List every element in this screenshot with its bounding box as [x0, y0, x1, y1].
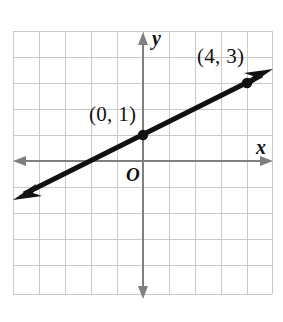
- x-axis-label: x: [256, 137, 266, 157]
- origin-label: O: [126, 165, 140, 184]
- point-label-4-3: (4, 3): [197, 46, 244, 67]
- graph-figure: (4, 3) (0, 1) O y x: [0, 0, 283, 322]
- y-axis-arrow-up: [138, 32, 148, 45]
- point-marker-4-3: [242, 78, 252, 88]
- y-axis-label: y: [152, 28, 161, 48]
- y-axis-arrow-down: [138, 286, 148, 299]
- point-label-0-1: (0, 1): [89, 104, 136, 125]
- point-marker-0-1: [138, 130, 148, 140]
- x-axis-arrow-left: [13, 156, 26, 166]
